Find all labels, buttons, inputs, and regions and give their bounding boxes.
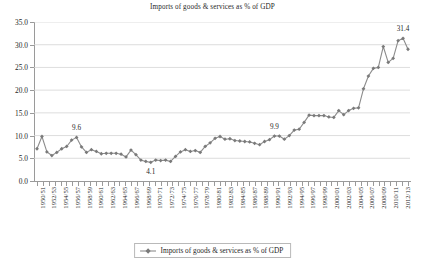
x-axis-tick-mark <box>225 182 226 186</box>
x-axis-tick-label: 1964/65 <box>122 187 129 209</box>
x-axis-tick-mark <box>84 182 85 186</box>
data-point-marker <box>238 139 242 143</box>
x-axis-tick-mark <box>379 182 380 186</box>
y-axis-tick-mark <box>30 158 34 159</box>
data-point-marker <box>149 160 153 164</box>
y-axis-tick-label: 30.0 <box>15 40 28 49</box>
x-axis-tick-mark <box>343 182 344 186</box>
x-axis-tick-mark <box>43 182 44 186</box>
data-point-markers <box>35 36 410 164</box>
plot-area <box>34 22 410 181</box>
data-point-marker <box>248 140 252 144</box>
y-axis-tick-mark <box>30 90 34 91</box>
x-axis-tick-mark <box>237 182 238 186</box>
x-axis-tick-mark <box>137 182 138 186</box>
y-axis-tick-mark <box>30 22 34 23</box>
x-axis-tick-mark <box>102 182 103 186</box>
x-axis-tick-mark <box>72 182 73 186</box>
y-axis-tick-label: 20.0 <box>15 86 28 95</box>
data-point-marker <box>193 149 197 153</box>
x-axis-tick-mark <box>290 182 291 186</box>
x-axis-tick-label: 1990/91 <box>275 187 282 209</box>
data-series-line <box>37 38 408 162</box>
y-axis-tick-mark <box>30 136 34 137</box>
y-axis-tick-mark <box>30 113 34 114</box>
x-axis-tick-label: 2008/09 <box>381 187 388 209</box>
legend-marker-icon <box>140 247 156 255</box>
x-axis-tick-mark <box>231 182 232 186</box>
x-axis-tick-label: 1984/85 <box>240 187 247 209</box>
x-axis-tick-mark <box>61 182 62 186</box>
data-point-marker <box>327 115 331 119</box>
x-axis-tick-label: 1992/93 <box>287 187 294 209</box>
data-point-label: 9.9 <box>270 123 279 131</box>
data-point-marker <box>233 139 237 143</box>
x-axis-tick-label: 1958/59 <box>87 187 94 209</box>
data-point-marker <box>184 148 188 152</box>
x-axis-tick-mark <box>49 182 50 186</box>
x-axis-tick-mark <box>373 182 374 186</box>
data-point-marker <box>40 135 44 139</box>
x-axis-tick-label: 1972/73 <box>169 187 176 209</box>
x-axis-tick-label: 1976/77 <box>193 187 200 209</box>
x-axis-tick-mark <box>326 182 327 186</box>
x-axis-tick-mark <box>243 182 244 186</box>
data-point-marker <box>109 151 113 155</box>
x-axis-tick-label: 2010/11 <box>393 187 400 208</box>
data-point-marker <box>144 160 148 164</box>
x-axis-tick-mark <box>320 182 321 186</box>
x-axis-tick-marks <box>34 182 411 186</box>
x-axis-tick-label: 2012/13 <box>405 187 412 209</box>
chart-title: Imports of goods & services as % of GDP <box>0 3 425 11</box>
x-axis-tick-mark <box>90 182 91 186</box>
chart-container: Imports of goods & services as % of GDP … <box>0 0 425 267</box>
x-axis-tick-mark <box>66 182 67 186</box>
x-axis-tick-label: 1996/97 <box>310 187 317 209</box>
x-axis-tick-mark <box>161 182 162 186</box>
x-axis-tick-label: 1978/79 <box>204 187 211 209</box>
y-axis-tick-label: 15.0 <box>15 108 28 117</box>
x-axis-tick-mark <box>361 182 362 186</box>
y-axis-tick-label: 0.0 <box>19 177 28 186</box>
data-point-marker <box>94 150 98 154</box>
data-point-marker <box>164 158 168 162</box>
x-axis-tick-label: 1998/99 <box>322 187 329 209</box>
x-axis-tick-mark <box>255 182 256 186</box>
x-axis-tick-label: 1966/67 <box>134 187 141 209</box>
legend-label: Imports of goods & services as % of GDP <box>161 246 284 255</box>
y-axis-tick-label: 5.0 <box>19 154 28 163</box>
x-axis-tick-mark <box>108 182 109 186</box>
x-axis-tick-mark <box>278 182 279 186</box>
x-axis-tick-label: 1952/53 <box>51 187 58 209</box>
x-axis-tick-label: 1970/71 <box>157 187 164 209</box>
x-axis-tick-mark <box>331 182 332 186</box>
x-axis-tick-mark <box>208 182 209 186</box>
x-axis-tick-mark <box>296 182 297 186</box>
x-axis-tick-mark <box>284 182 285 186</box>
y-axis-tick-label: 25.0 <box>15 63 28 72</box>
x-axis-tick-label: 1980/81 <box>216 187 223 209</box>
x-axis-tick-mark <box>167 182 168 186</box>
data-point-label: 4.1 <box>146 168 155 176</box>
x-axis-tick-mark <box>308 182 309 186</box>
x-axis-tick-mark <box>408 182 409 186</box>
x-axis-tick-label: 1988/89 <box>263 187 270 209</box>
data-point-marker <box>312 114 316 118</box>
x-axis-tick-mark <box>119 182 120 186</box>
data-point-marker <box>228 137 232 141</box>
x-axis-tick-mark <box>402 182 403 186</box>
data-point-marker <box>253 141 257 145</box>
x-axis-tick-mark <box>190 182 191 186</box>
y-axis-tick-labels: 0.05.010.015.020.025.030.035.0 <box>0 22 31 181</box>
x-axis-tick-mark <box>249 182 250 186</box>
x-axis-tick-label: 1954/55 <box>63 187 70 209</box>
x-axis-tick-mark <box>261 182 262 186</box>
x-axis-tick-labels: 1950/511952/531954/551956/571958/591960/… <box>34 187 411 235</box>
x-axis-tick-mark <box>337 182 338 186</box>
x-axis-tick-mark <box>143 182 144 186</box>
y-axis-tick-mark <box>30 67 34 68</box>
data-point-marker <box>317 114 321 118</box>
x-axis-tick-mark <box>220 182 221 186</box>
x-axis-tick-mark <box>302 182 303 186</box>
x-axis-tick-mark <box>367 182 368 186</box>
